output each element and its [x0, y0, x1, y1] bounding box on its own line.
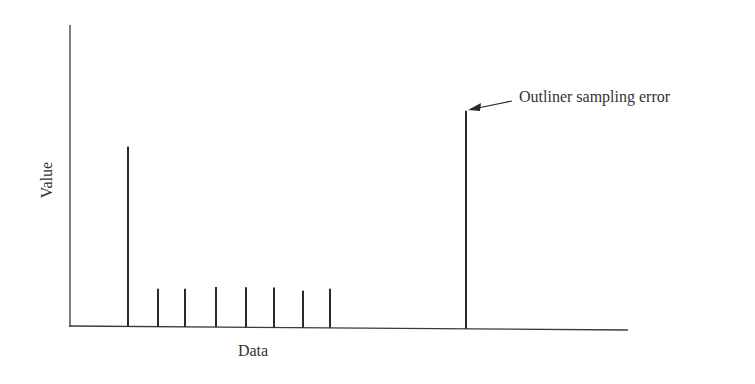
annotation-arrow	[468, 101, 512, 111]
stem-chart	[0, 0, 755, 384]
outlier-annotation: Outliner sampling error	[519, 88, 670, 106]
x-axis	[69, 326, 628, 330]
y-axis-label: Value	[38, 162, 56, 198]
axes	[69, 25, 628, 330]
x-axis-label: Data	[238, 342, 268, 360]
arrow-head-icon	[468, 103, 481, 111]
stems	[128, 111, 466, 329]
